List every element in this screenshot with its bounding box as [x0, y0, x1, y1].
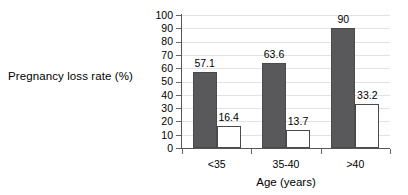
x-axis-title: Age (years)	[182, 176, 390, 189]
bar-value-label: 63.6	[257, 49, 291, 60]
bar	[217, 126, 241, 148]
y-axis-tick-label: 50	[147, 76, 173, 87]
y-axis-tick	[176, 108, 181, 109]
bar	[286, 130, 310, 148]
y-axis-tick-label: 90	[147, 23, 173, 34]
y-axis-tick	[176, 95, 181, 96]
gridline	[182, 42, 390, 43]
y-axis-tick-label: 10	[147, 130, 173, 141]
bar-value-label: 13.7	[281, 116, 315, 127]
x-axis-category-label: >40	[321, 158, 390, 170]
bar	[262, 63, 286, 148]
y-axis-title: Pregnancy loss rate (%)	[8, 69, 158, 83]
y-axis-tick	[176, 15, 181, 16]
y-axis-tick-labels: 0102030405060708090100	[147, 0, 173, 195]
bar-value-label: 57.1	[188, 58, 222, 69]
y-axis-tick	[176, 82, 181, 83]
x-axis-tick	[182, 149, 183, 154]
bar	[331, 28, 355, 148]
x-axis-tick	[251, 149, 252, 154]
bar-value-label: 33.2	[350, 90, 384, 101]
x-axis-category-label: 35-40	[251, 158, 320, 170]
y-axis-tick-label: 100	[147, 10, 173, 21]
y-axis-tick	[176, 148, 181, 149]
gridline	[182, 28, 390, 29]
bar-value-label: 90	[326, 14, 360, 25]
x-axis-tick	[321, 149, 322, 154]
bar-value-label: 16.4	[212, 112, 246, 123]
y-axis-tick-label: 70	[147, 50, 173, 61]
y-axis-tick-label: 40	[147, 90, 173, 101]
y-axis-tick	[176, 135, 181, 136]
y-axis-tick-label: 30	[147, 103, 173, 114]
y-axis-tick-label: 80	[147, 36, 173, 47]
plot-area	[182, 15, 390, 148]
bar-chart-figure: Pregnancy loss rate (%) 0102030405060708…	[0, 0, 408, 195]
y-axis-tick	[176, 28, 181, 29]
y-axis-tick-label: 0	[147, 143, 173, 154]
y-axis-tick	[176, 121, 181, 122]
y-axis-tick-label: 20	[147, 116, 173, 127]
x-axis-tick	[390, 149, 391, 154]
bar	[355, 104, 379, 148]
y-axis-tick	[176, 55, 181, 56]
y-axis-tick	[176, 68, 181, 69]
y-axis-tick	[176, 42, 181, 43]
bar	[193, 72, 217, 148]
y-axis-tick-label: 60	[147, 63, 173, 74]
x-axis-category-label: <35	[182, 158, 251, 170]
